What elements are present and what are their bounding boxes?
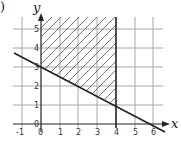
svg-text:4: 4 (114, 128, 119, 137)
svg-text:1: 1 (58, 128, 63, 137)
svg-text:5: 5 (34, 25, 39, 34)
x-tick-labels: -1 0 1 2 3 4 5 6 (16, 128, 156, 137)
svg-text:0: 0 (34, 120, 39, 129)
inequality-graph: ) (0, 0, 181, 145)
svg-text:6: 6 (151, 128, 156, 137)
x-axis-arrow-icon (162, 121, 170, 127)
y-axis-label: y (32, 0, 41, 15)
svg-text:5: 5 (133, 128, 138, 137)
part-label-fragment: ) (0, 0, 5, 14)
svg-text:2: 2 (34, 82, 39, 91)
svg-text:2: 2 (76, 128, 81, 137)
svg-text:3: 3 (95, 128, 100, 137)
svg-text:4: 4 (34, 44, 39, 53)
x-axis-label: x (171, 116, 179, 131)
svg-text:3: 3 (34, 63, 39, 72)
vertical-grid-lines (22, 17, 153, 128)
hatched-region (0, 10, 181, 130)
svg-text:0: 0 (38, 128, 43, 137)
svg-text:-1: -1 (16, 128, 24, 137)
svg-text:1: 1 (34, 101, 39, 110)
y-tick-labels: 0 1 2 3 4 5 (34, 25, 39, 129)
